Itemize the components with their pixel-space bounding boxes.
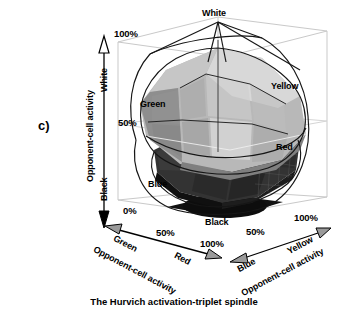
- panel-label: c): [38, 118, 50, 133]
- vertical-axis-pole-white: White: [100, 68, 109, 92]
- figure-root: c) Opponent-cell activity White Black 10…: [0, 0, 348, 313]
- tick-vertical-50: 50%: [118, 118, 137, 128]
- vertex-label-green: Green: [140, 100, 166, 109]
- vertex-label-black: Black: [205, 218, 229, 227]
- tick-vertical-0: 0%: [123, 206, 137, 216]
- tick-vertical-100: 100%: [114, 29, 138, 39]
- vertex-label-red: Red: [276, 143, 293, 152]
- tick-left-100: 100%: [200, 239, 224, 249]
- tick-right-100: 100%: [294, 213, 318, 223]
- vertex-label-yellow: Yellow: [271, 82, 298, 91]
- tick-left-50: 50%: [156, 228, 175, 238]
- tick-right-50: 50%: [246, 227, 265, 237]
- vertical-axis-title: Opponent-cell activity: [86, 90, 95, 182]
- vertex-label-white: White: [202, 9, 226, 18]
- vertical-axis-pole-black: Black: [100, 177, 109, 201]
- figure-caption: The Hurvich activation-triplet spindle: [0, 296, 348, 307]
- vertex-label-blue: Blue: [148, 180, 167, 189]
